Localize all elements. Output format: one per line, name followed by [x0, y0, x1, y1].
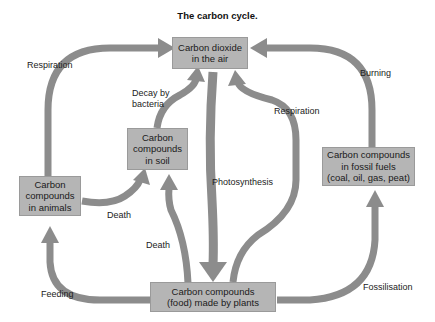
arrowhead-fossilisation — [366, 190, 384, 207]
node-air-text: Carbon dioxide in the air — [178, 42, 242, 65]
label-photosynthesis: Photosynthesis — [212, 177, 273, 188]
arrowhead-burning — [250, 38, 267, 58]
node-carbon-soil: Carbon compounds in soil — [127, 128, 188, 170]
label-death-animals: Death — [107, 210, 131, 221]
label-fossilisation: Fossilisation — [363, 282, 413, 293]
node-carbon-dioxide-air: Carbon dioxide in the air — [172, 37, 248, 69]
arrow-fossilisation — [277, 205, 375, 300]
arrowhead-respiration-plants — [228, 70, 246, 86]
node-soil-text: Carbon compounds in soil — [133, 132, 182, 167]
node-carbon-plants: Carbon compounds (food) made by plants — [150, 282, 276, 312]
node-fossil-text: Carbon compounds in fossil fuels (coal, … — [327, 149, 410, 184]
label-respiration-plants: Respiration — [274, 106, 320, 117]
label-death-plants: Death — [146, 240, 170, 251]
arrow-burning — [265, 48, 372, 147]
label-feeding: Feeding — [41, 289, 74, 300]
arrow-photosynthesis — [210, 72, 213, 265]
label-burning: Burning — [360, 68, 391, 79]
label-decay: Decay by bacteria — [132, 88, 170, 110]
arrow-death-plants — [169, 188, 188, 283]
arrow-death-animals — [82, 180, 140, 203]
node-carbon-fossil-fuels: Carbon compounds in fossil fuels (coal, … — [322, 147, 415, 186]
arrowhead-death-plants — [160, 174, 178, 190]
node-animals-text: Carbon compounds in animals — [25, 179, 74, 214]
node-carbon-animals: Carbon compounds in animals — [19, 176, 81, 216]
node-plants-text: Carbon compounds (food) made by plants — [167, 286, 259, 309]
label-respiration-animals: Respiration — [27, 60, 73, 71]
arrowhead-feeding — [41, 226, 59, 243]
arrowhead-photosynthesis — [199, 262, 227, 282]
